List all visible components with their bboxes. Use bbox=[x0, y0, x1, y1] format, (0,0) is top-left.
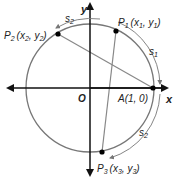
point-p2 bbox=[55, 31, 60, 36]
arc-s2-top-label: s2 bbox=[65, 13, 74, 25]
chord-p1-p3 bbox=[102, 31, 116, 152]
arc-s1-label: s1 bbox=[149, 46, 158, 58]
y-axis-label: y bbox=[80, 3, 88, 15]
p3-label: P3(x3, y3) bbox=[97, 163, 140, 175]
point-a bbox=[150, 85, 155, 90]
x-axis-label: x bbox=[165, 93, 173, 105]
arc-s2-bottom-label: s2 bbox=[139, 127, 148, 139]
unit-circle-diagram: y x O A(1, 0) P1(x1, y1) P2(x2, y2) P3(x… bbox=[0, 0, 175, 178]
chord-p2-a bbox=[58, 34, 153, 88]
point-a-label: A(1, 0) bbox=[117, 93, 148, 104]
point-p1 bbox=[113, 28, 118, 33]
arc-s2-top bbox=[56, 18, 100, 28]
origin-label: O bbox=[78, 93, 86, 104]
p1-label: P1(x1, y1) bbox=[118, 17, 161, 29]
p2-label: P2(x2, y2) bbox=[4, 30, 47, 42]
point-p3 bbox=[99, 149, 104, 154]
